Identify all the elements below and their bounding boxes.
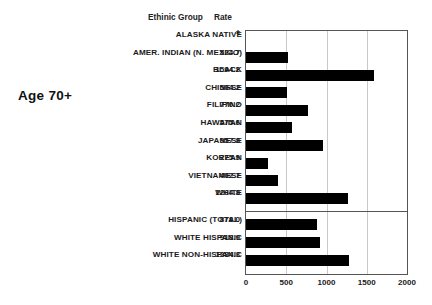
x-axis-tick-label: 2000 — [398, 278, 416, 287]
x-axis-tick-label: 1500 — [358, 278, 376, 287]
bar — [246, 237, 320, 248]
bar — [246, 140, 323, 151]
x-axis-tick-label: 500 — [280, 278, 293, 287]
bar — [246, 70, 374, 81]
bar — [246, 175, 278, 186]
row-rate-value: 504.2 — [196, 83, 240, 92]
chart-root: Age 70+ Ethinic Group Rate ALASKA NATIVE… — [0, 0, 432, 305]
row-rate-value: 1284.3 — [196, 250, 240, 259]
row-rate-value: 918.9 — [196, 233, 240, 242]
bar — [246, 193, 348, 204]
bar — [246, 219, 317, 230]
row-rate-value: 957.8 — [196, 136, 240, 145]
plot-area — [245, 30, 408, 275]
column-header-group: Ethinic Group — [148, 12, 203, 22]
row-rate-value: 878.0 — [196, 215, 240, 224]
bar — [246, 122, 292, 133]
row-rate-value: 770.2 — [196, 100, 240, 109]
row-rate-value: 402.7 — [196, 171, 240, 180]
bar — [246, 87, 287, 98]
x-axis-tick-label: 1000 — [318, 278, 336, 287]
bar-layer — [246, 31, 407, 274]
column-header-rate: Rate — [214, 12, 232, 22]
row-rate-value: 524.7 — [196, 48, 240, 57]
x-axis: 0500100015002000 — [245, 278, 408, 292]
bar — [246, 158, 268, 169]
bar — [246, 52, 288, 63]
row-rate-value: 575.6 — [196, 118, 240, 127]
row-rate-value: 1264.8 — [196, 188, 240, 197]
row-rate-value: * — [196, 30, 240, 39]
bar — [246, 105, 308, 116]
bar — [246, 255, 349, 266]
row-rate-value: 275.9 — [196, 153, 240, 162]
x-axis-tick-label: 0 — [244, 278, 248, 287]
row-rate-value: 1594.2 — [196, 65, 240, 74]
